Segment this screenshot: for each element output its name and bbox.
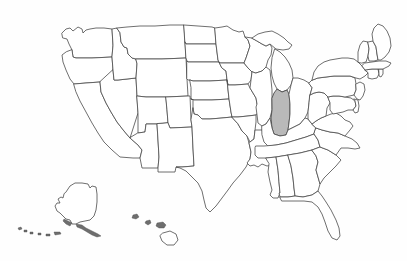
aleutian-islet-5 — [46, 234, 50, 236]
state-wyoming[interactable]: Wyoming — [136, 58, 188, 97]
aleutian-islet-4 — [38, 233, 41, 235]
state-colorado[interactable]: Colorado — [166, 96, 192, 128]
us-map-figure: Washington Oregon California Nevada Idah… — [0, 0, 407, 261]
aleutian-islet-3 — [30, 232, 33, 234]
state-kansas[interactable]: Kansas — [190, 80, 229, 100]
us-states-map[interactable]: Washington Oregon California Nevada Idah… — [0, 0, 407, 261]
state-indiana-highlighted[interactable]: Indiana — [271, 89, 290, 136]
state-south-dakota[interactable]: South Dakota — [185, 42, 219, 62]
aleutian-islet-2 — [24, 230, 27, 232]
state-new-mexico[interactable]: New Mexico — [157, 123, 194, 172]
state-north-dakota[interactable]: North Dakota — [184, 25, 216, 44]
